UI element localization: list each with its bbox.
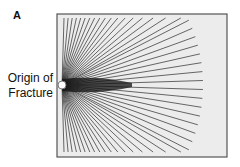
fracture-diagram xyxy=(0,0,240,167)
origin-point-icon xyxy=(58,81,66,89)
